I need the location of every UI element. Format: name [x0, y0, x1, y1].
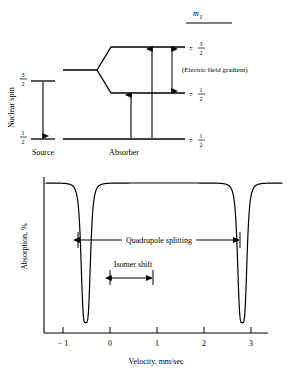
source-levels: 3 2 1 2 Source — [20, 72, 55, 157]
level-label-ground-sign: ± — [189, 136, 193, 144]
x-tick-label-0: − 1 — [58, 339, 69, 348]
source-excited-numerator: 3 — [22, 72, 25, 78]
x-tick-label-2: 1 — [155, 339, 159, 348]
y-axis-label: Absorption, % — [20, 223, 29, 270]
x-tick-label-3: 2 — [202, 339, 206, 348]
spectrum-chart: Absorption, % − 1 0 1 2 3 Velocity, mm/s… — [20, 177, 282, 366]
efg-label: (Electric field gradient) — [182, 66, 248, 74]
isomer-shift-annotation: Isomer shift — [110, 260, 153, 285]
level-label-excited-lower: ± 1 2 — [189, 87, 205, 102]
source-ground-level-label: 1 2 — [20, 130, 27, 145]
source-ground-numerator: 1 — [22, 130, 25, 136]
level-label-ground: ± 1 2 — [189, 133, 205, 148]
source-excited-denominator: 2 — [22, 81, 25, 87]
source-caption: Source — [32, 148, 55, 157]
m-quantum-number-header: m I — [186, 9, 232, 23]
absorber-level-value-labels: ± 3 2 ± 1 2 ± 1 2 — [189, 41, 205, 148]
source-excited-level-label: 3 2 — [20, 72, 27, 87]
level-label-excited-lower-sign: ± — [189, 90, 193, 98]
x-tick-label-4: 3 — [249, 339, 253, 348]
level-label-excited-upper-num: 3 — [200, 41, 203, 47]
m-quantum-label: m — [193, 9, 199, 18]
level-label-excited-upper-sign: ± — [189, 44, 193, 52]
x-axis-label: Velocity, mm/sec — [128, 357, 183, 366]
figure-svg: m I Nuclear spin 3 2 1 2 Source — [0, 0, 292, 374]
level-label-ground-num: 1 — [200, 133, 203, 139]
absorber-caption: Absorber — [109, 148, 139, 157]
isomer-shift-label: Isomer shift — [114, 260, 153, 269]
level-label-excited-lower-den: 2 — [200, 96, 203, 102]
level-label-ground-den: 2 — [200, 142, 203, 148]
absorber-levels: (Electric field gradient) Absorber — [63, 47, 248, 157]
level-label-excited-upper-den: 2 — [200, 50, 203, 56]
x-axis-ticks: − 1 0 1 2 3 — [58, 327, 253, 348]
figure-root: m I Nuclear spin 3 2 1 2 Source — [0, 0, 292, 374]
level-diagram: m I Nuclear spin 3 2 1 2 Source — [7, 9, 248, 157]
m-quantum-subscript: I — [199, 14, 203, 20]
x-tick-label-1: 0 — [108, 339, 112, 348]
spectrum-curve — [46, 183, 282, 323]
source-ground-denominator: 2 — [22, 139, 25, 145]
quadrupole-splitting-annotation: Quadrupole splitting — [78, 232, 240, 248]
level-label-excited-upper: ± 3 2 — [189, 41, 205, 56]
quadrupole-splitting-label: Quadrupole splitting — [126, 236, 192, 245]
nuclear-spin-axis-label: Nuclear spin — [7, 87, 16, 128]
level-label-excited-lower-num: 1 — [200, 87, 203, 93]
